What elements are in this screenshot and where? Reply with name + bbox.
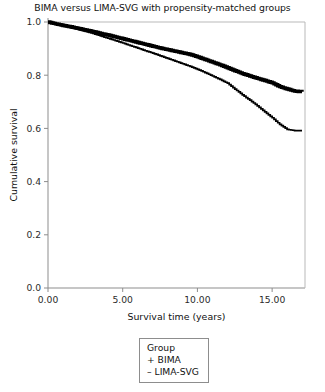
y-tick-label: 0.4 — [26, 176, 41, 187]
legend: Group + BIMA – LIMA-SVG — [139, 338, 209, 383]
legend-item-lima-svg: – LIMA-SVG — [147, 366, 199, 378]
legend-item-bima: + BIMA — [147, 354, 199, 366]
y-tick-label: 0.8 — [26, 70, 41, 81]
x-tick-label: 10.00 — [184, 294, 210, 305]
x-tick-label: 15.00 — [259, 294, 285, 305]
axes — [48, 18, 305, 288]
legend-title: Group — [147, 342, 199, 354]
x-axis-title: Survival time (years) — [127, 311, 225, 322]
y-tick-label: 1.0 — [26, 16, 41, 27]
y-tick-label: 0.0 — [26, 282, 41, 293]
x-tick-label: 0.00 — [38, 294, 59, 305]
y-axis-title: Cumulative survival — [8, 108, 19, 201]
x-tick-label: 5.00 — [112, 294, 133, 305]
survival-curves — [48, 22, 302, 131]
survival-chart-figure: BIMA versus LIMA-SVG with propensity-mat… — [0, 0, 325, 392]
tick-labels: 0.00.20.40.60.81.00.005.0010.0015.00 — [26, 16, 285, 305]
survival-curve-lima-svg — [48, 22, 302, 131]
y-tick-label: 0.2 — [26, 229, 41, 240]
survival-curve-bima — [48, 22, 302, 92]
plot-area: 0.00.20.40.60.81.00.005.0010.0015.00 Sur… — [0, 0, 325, 392]
y-tick-label: 0.6 — [26, 123, 41, 134]
tick-marks — [44, 22, 272, 292]
